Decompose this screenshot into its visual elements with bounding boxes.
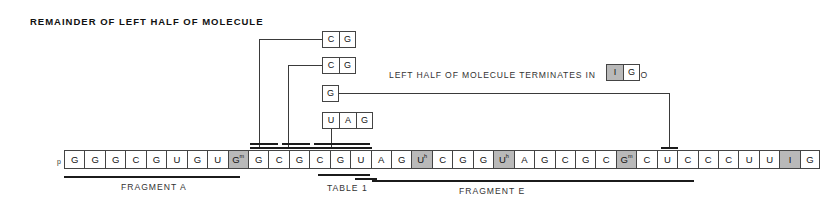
group3-cell-1-A: A [339, 112, 356, 129]
oligo-group-cg-2: CG [322, 57, 356, 74]
sequence-cell-2-G: G [105, 150, 125, 169]
sequence-cell-32-C: C [718, 150, 738, 169]
base-letter: G [194, 155, 201, 165]
sequence-cell-23-G: G [534, 150, 554, 169]
base-letter: U [173, 155, 180, 165]
connector-bar-table1 [250, 147, 372, 149]
nucleotide-sequence-strip: GGGCGUGUGmGCGCGUAGUhCGGUhAGCGCGmCUCCCUUI… [64, 150, 820, 169]
sequence-cell-3-C: C [125, 150, 145, 169]
base-letter: G [337, 155, 344, 165]
connector-line-group1-vertical [259, 39, 260, 149]
connector-line-group1-horizontal [259, 39, 322, 40]
figure-title: REMAINDER OF LEFT HALF OF MOLECULE [30, 16, 264, 27]
sequence-cell-20-G: G [473, 150, 493, 169]
group3-cell-2-G: G [356, 112, 373, 129]
sequence-cell-25-G: G [575, 150, 595, 169]
fragment-a-underline [64, 176, 240, 178]
sequence-cell-1-G: G [84, 150, 104, 169]
base-letter: G [71, 155, 78, 165]
group1-cell-1-G: G [339, 57, 356, 74]
sequence-cell-26-C: C [595, 150, 615, 169]
connector-line-group2-horizontal [288, 65, 322, 66]
table1-underline-upper [318, 174, 370, 176]
base-letter: C [644, 155, 651, 165]
sequence-cell-22-A: A [514, 150, 534, 169]
base-letter: G [327, 89, 334, 98]
base-letter: A [378, 155, 384, 165]
base-letter: U [417, 155, 424, 165]
sequence-cell-30-C: C [677, 150, 697, 169]
terminal-dinucleotide-boxes: IG [606, 64, 640, 81]
group1-cell-0-C: C [322, 57, 339, 74]
base-letter: G [232, 155, 239, 165]
base-letter: G [806, 155, 813, 165]
connector-line-group4-vertical [331, 129, 332, 149]
sequence-cell-35-I: I [779, 150, 799, 169]
base-letter: I [614, 68, 617, 77]
sequence-cell-6-G: G [187, 150, 207, 169]
sequence-cell-11-G: G [289, 150, 309, 169]
base-letter: G [628, 68, 635, 77]
base-letter: C [328, 61, 335, 70]
base-letter: C [328, 35, 335, 44]
base-letter: U [214, 155, 221, 165]
sequence-cell-31-C: C [698, 150, 718, 169]
base-letter: C [276, 155, 283, 165]
base-letter: C [317, 155, 324, 165]
sequence-cell-12-C: C [309, 150, 329, 169]
sequence-cell-33-U: U [738, 150, 758, 169]
base-letter: C [705, 155, 712, 165]
sequence-cell-8-G: Gm [228, 150, 248, 169]
base-letter: U [746, 155, 753, 165]
group0-cell-1-G: G [339, 31, 356, 48]
oligo-group-uag: UAG [322, 112, 373, 129]
base-letter: I [789, 155, 792, 165]
base-letter: A [345, 116, 351, 125]
base-letter: U [357, 155, 364, 165]
sequence-cell-5-U: U [166, 150, 186, 169]
fragment-a-label: FRAGMENT A [121, 182, 187, 192]
base-letter: C [725, 155, 732, 165]
base-letter: G [541, 155, 548, 165]
base-letter: G [582, 155, 589, 165]
sequence-cell-29-U: U [657, 150, 677, 169]
connector-foot-group3 [661, 147, 678, 149]
base-letter: C [562, 155, 569, 165]
fragment-e-underline [372, 180, 694, 182]
sequence-cell-28-C: C [636, 150, 656, 169]
table1-label: TABLE 1 [327, 183, 368, 193]
base-letter: U [664, 155, 671, 165]
sequence-cell-15-A: A [371, 150, 391, 169]
sequence-cell-14-U: U [350, 150, 370, 169]
base-letter: C [603, 155, 610, 165]
group3-cell-0-U: U [322, 112, 339, 129]
base-letter: G [621, 155, 628, 165]
five-prime-phosphate-label: p [57, 158, 61, 165]
tick-segment-2 [282, 143, 310, 145]
base-letter: C [439, 155, 446, 165]
connector-line-group2-vertical [288, 65, 289, 149]
group0-cell-0-C: C [322, 31, 339, 48]
base-letter: U [499, 155, 506, 165]
tick-segment-3 [314, 143, 370, 145]
base-letter: G [344, 61, 351, 70]
fragment-e-label: FRAGMENT E [459, 186, 525, 196]
terminates-caption: LEFT HALF OF MOLECULE TERMINATES IN [389, 70, 596, 80]
base-modification-superscript: h [506, 154, 509, 160]
tick-segment-1 [250, 143, 278, 145]
sequence-cell-27-G: Gm [616, 150, 636, 169]
terminal-cell-1-G: G [623, 64, 640, 81]
base-letter: C [133, 155, 140, 165]
base-letter: A [521, 155, 527, 165]
sequence-cell-24-C: C [555, 150, 575, 169]
base-letter: G [112, 155, 119, 165]
base-letter: G [480, 155, 487, 165]
base-letter: G [255, 155, 262, 165]
base-letter: G [344, 35, 351, 44]
sequence-cell-16-G: G [391, 150, 411, 169]
sequence-cell-36-G: G [800, 150, 820, 169]
base-letter: G [459, 155, 466, 165]
connector-line-group3-horizontal [339, 93, 669, 94]
connector-line-group3-vertical [669, 93, 670, 149]
sequence-cell-21-U: Uh [493, 150, 513, 169]
